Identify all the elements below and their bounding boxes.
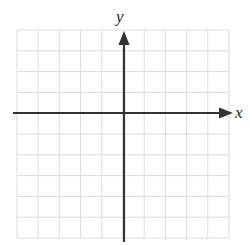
- coordinate-grid-svg: [0, 0, 250, 245]
- y-axis: [118, 31, 129, 242]
- y-axis-label: y: [116, 8, 124, 25]
- y-axis-arrowhead-icon: [118, 31, 129, 45]
- x-axis-label: x: [235, 104, 243, 121]
- x-axis-arrowhead-icon: [219, 107, 233, 118]
- coordinate-plane-figure: y x: [0, 0, 250, 245]
